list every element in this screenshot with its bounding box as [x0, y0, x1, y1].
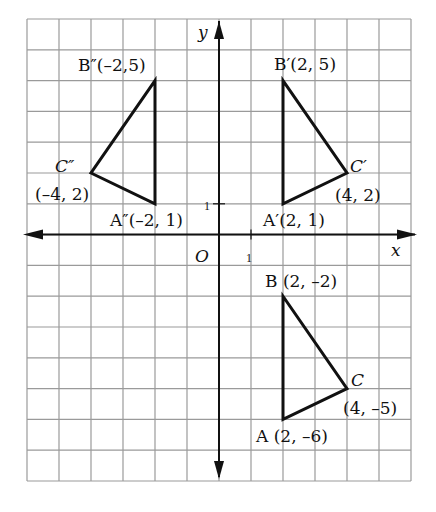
label-C-prime-name: C′	[350, 156, 367, 176]
origin-label: O	[195, 246, 209, 266]
label-B: B (2, –2)	[265, 271, 337, 291]
label-C-coord: (4, –5)	[343, 398, 397, 418]
label-C-double-prime-coord: (–4, 2)	[35, 184, 89, 204]
label-A-double-prime: A″(–2, 1)	[109, 210, 183, 230]
coordinate-plane-svg: x y O 1 1 B (2, –2) C (4, –5) A (2, –6) …	[0, 0, 436, 512]
y-axis-label: y	[197, 22, 208, 42]
label-A: A (2, –6)	[255, 426, 328, 446]
label-C-double-prime-name: C″	[55, 156, 75, 176]
x-axis-label: x	[391, 240, 401, 260]
y-axis-arrow-up-icon	[214, 21, 224, 39]
label-C-name: C	[351, 370, 364, 390]
x-tick-label: 1	[246, 251, 252, 265]
label-A-prime: A′(2, 1)	[262, 210, 325, 230]
x-axis-arrow-left-icon	[23, 230, 43, 240]
label-B-double-prime: B″(–2,5)	[78, 55, 146, 75]
coordinate-plane-figure: x y O 1 1 B (2, –2) C (4, –5) A (2, –6) …	[0, 0, 436, 512]
y-axis-arrow-down-icon	[214, 461, 224, 479]
label-C-prime-coord: (4, 2)	[335, 185, 381, 205]
label-B-prime: B′(2, 5)	[274, 54, 336, 74]
x-axis-arrow-right-icon	[397, 230, 417, 240]
y-tick-label: 1	[204, 199, 210, 213]
